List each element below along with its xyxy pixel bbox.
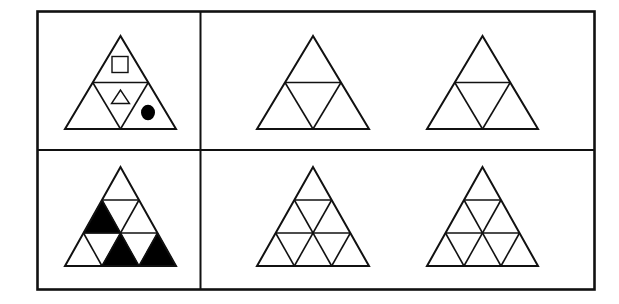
- puzzle-figure: [0, 0, 619, 304]
- black-cell-row3-right: [139, 233, 176, 266]
- triangle-outline-icon: [112, 90, 130, 104]
- option-bottom-2[interactable]: [427, 167, 538, 266]
- black-cell-row2-left: [84, 200, 121, 233]
- example-top-triangle: [65, 36, 176, 129]
- option-top-1[interactable]: [257, 36, 369, 129]
- option-top-2[interactable]: [427, 36, 538, 129]
- option-bottom-1[interactable]: [257, 167, 369, 266]
- filled-circle-icon: [141, 105, 155, 121]
- black-cell-row3-middle: [102, 233, 139, 266]
- square-outline-icon: [112, 57, 128, 73]
- example-bottom-triangle: [65, 167, 176, 266]
